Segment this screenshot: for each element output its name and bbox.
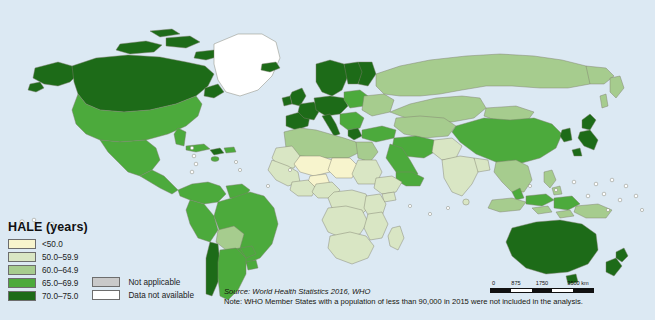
map-legend: HALE (years) <50.0 50.0–59.9 60.0–64.9 6… bbox=[8, 220, 194, 302]
hale-world-map-figure: .l { fill:#f7f4cd; } .ll { fill:#d9e6c4;… bbox=[0, 0, 655, 320]
legend-swatch-70-75 bbox=[8, 291, 36, 302]
legend-label-50-59: 50.0–59.9 bbox=[42, 253, 78, 262]
legend-class-column: <50.0 50.0–59.9 60.0–64.9 65.0–69.9 70.0… bbox=[8, 238, 78, 302]
legend-item: 60.0–64.9 bbox=[8, 264, 78, 276]
scale-seg-2 bbox=[511, 289, 531, 292]
scale-tick-1750: 1750 bbox=[536, 280, 548, 286]
scale-tick-3500: 3500 km bbox=[567, 280, 588, 286]
legend-extra-column: Not applicable Data not available bbox=[92, 238, 194, 301]
legend-title: HALE (years) bbox=[8, 220, 194, 234]
legend-swatch-not-applicable bbox=[92, 277, 120, 288]
legend-item: 50.0–59.9 bbox=[8, 251, 78, 263]
scale-bar-track bbox=[490, 288, 594, 293]
legend-swatch-no-data bbox=[92, 290, 120, 301]
legend-label-60-64: 60.0–64.9 bbox=[42, 266, 78, 275]
legend-item: Not applicable bbox=[92, 276, 194, 288]
scale-seg-3 bbox=[532, 289, 552, 292]
note-line: Note: WHO Member States with a populatio… bbox=[224, 297, 583, 307]
legend-item: 65.0–69.9 bbox=[8, 277, 78, 289]
scale-seg-1 bbox=[491, 289, 511, 292]
legend-swatch-50-59 bbox=[8, 252, 36, 263]
legend-item: Data not available bbox=[92, 289, 194, 301]
scale-bar-ticks: 0 875 1750 3500 km bbox=[490, 280, 594, 288]
legend-label-65-69: 65.0–69.9 bbox=[42, 279, 78, 288]
scale-tick-875: 875 bbox=[511, 280, 520, 286]
legend-swatch-lt50 bbox=[8, 239, 36, 250]
scale-tick-0: 0 bbox=[492, 280, 495, 286]
legend-item: <50.0 bbox=[8, 238, 78, 250]
legend-swatch-65-69 bbox=[8, 278, 36, 289]
legend-label-70-75: 70.0–75.0 bbox=[42, 292, 78, 301]
scale-bar: 0 875 1750 3500 km bbox=[490, 280, 594, 293]
legend-label-not-applicable: Not applicable bbox=[128, 278, 180, 287]
legend-item: 70.0–75.0 bbox=[8, 290, 78, 302]
legend-swatch-60-64 bbox=[8, 265, 36, 276]
scale-seg-5 bbox=[573, 289, 593, 292]
legend-label-lt50: <50.0 bbox=[42, 240, 63, 249]
legend-label-no-data: Data not available bbox=[128, 291, 194, 300]
scale-seg-4 bbox=[552, 289, 572, 292]
